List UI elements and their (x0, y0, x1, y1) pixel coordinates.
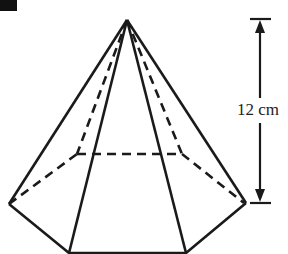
height-label: 12 cm (236, 100, 280, 120)
arrow-down-icon (255, 189, 265, 202)
arrow-up-icon (255, 20, 265, 33)
hidden-edges (9, 20, 244, 204)
hexagonal-pyramid-diagram (0, 0, 288, 254)
visible-edges (9, 20, 246, 253)
